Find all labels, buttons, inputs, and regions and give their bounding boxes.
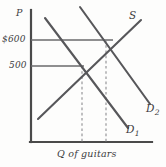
x-axis-label: Q of guitars [57,149,117,159]
demand-curve-d1 [45,18,128,128]
demand-d2-subscript: 2 [155,108,160,117]
demand-d1-base: D [126,123,135,135]
demand-d2-base: D [146,102,155,114]
supply-curve-label: S [129,10,136,21]
demand-d1-subscript: 1 [135,129,140,138]
price-tick-500: 500 [9,61,27,70]
demand-curve-d2-label: D2 [146,103,160,117]
chart-canvas [0,0,166,167]
demand-curve-d1-label: D1 [126,124,140,138]
price-tick-600: $600 [2,35,26,44]
supply-demand-chart: P $600 500 S D1 D2 Q of guitars [0,0,166,167]
y-axis-label: P [16,8,23,18]
